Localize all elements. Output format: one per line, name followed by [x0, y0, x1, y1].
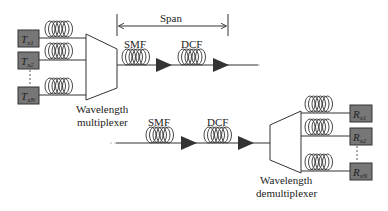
multiplexer-label-line2: multiplexer [77, 116, 128, 128]
smf-label-upper: SMF [124, 38, 146, 50]
dcf-coil-icon [204, 127, 232, 143]
dcf-coil-icon [178, 49, 206, 65]
fiber-coil-icon [305, 119, 333, 135]
amplifier-icon [156, 58, 172, 72]
dcf-label-lower: DCF [207, 116, 228, 128]
amplifier-icon [181, 136, 197, 150]
receiver-rx1: Rx1 [350, 105, 372, 122]
fiber-coil-icon [45, 21, 73, 37]
fiber-coil-icon [305, 154, 333, 170]
wavelength-multiplexer [86, 34, 117, 100]
dcf-label-upper: DCF [181, 38, 202, 50]
multiplexer-label-line1: Wavelength [76, 103, 129, 115]
transmitter-tx2: Tx2 [18, 52, 39, 69]
smf-coil-icon [146, 127, 174, 143]
fiber-coil-icon [45, 43, 73, 59]
demultiplexer-label-line1: Wavelength [260, 174, 313, 186]
amplifier-icon [238, 136, 254, 150]
smf-coil-icon [122, 49, 150, 65]
wavelength-demultiplexer [270, 111, 301, 173]
span-label: Span [160, 12, 183, 24]
smf-label-lower: SMF [148, 116, 170, 128]
demultiplexer-label-line2: demultiplexer [256, 187, 317, 199]
wdm-link-diagram: Tx1 Tx2 TxN Wavelength multiplexer Span … [0, 0, 388, 211]
transmitter-tx1: Tx1 [18, 30, 39, 47]
receiver-rx2: Rx2 [350, 128, 372, 145]
fiber-coil-icon [45, 78, 73, 94]
transmitter-txN: TxN [18, 87, 39, 104]
receiver-rxN: RxN [350, 163, 372, 180]
amplifier-icon [213, 58, 229, 72]
fiber-coil-icon [305, 96, 333, 112]
